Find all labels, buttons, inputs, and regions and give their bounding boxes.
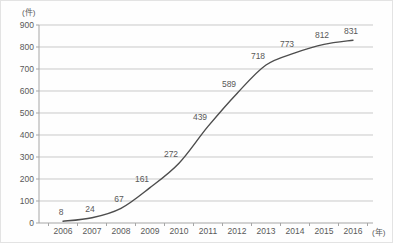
data-point-label: 67 (114, 194, 124, 204)
y-tick-label: 500 (20, 108, 34, 118)
data-point-label: 272 (164, 149, 178, 159)
x-tick-label: 2012 (228, 226, 247, 236)
x-tick-label: 2006 (54, 226, 73, 236)
data-point-label: 24 (85, 204, 95, 214)
y-tick-label: 700 (20, 64, 34, 74)
data-point-label: 773 (280, 39, 294, 49)
chart-canvas: 0100200300400500600700800900 20062007200… (1, 1, 393, 243)
data-point-label: 589 (222, 79, 236, 89)
x-axis-labels: 2006200720082009201020112012201320142015… (54, 226, 363, 236)
axes (39, 25, 373, 223)
x-tick-label: 2008 (112, 226, 131, 236)
x-tick-label: 2015 (315, 226, 334, 236)
data-point-label: 831 (344, 26, 358, 36)
y-axis-unit-label: (件) (22, 6, 35, 17)
x-tick-label: 2016 (344, 226, 363, 236)
point-labels: 82467161272439589718773812831 (59, 26, 359, 217)
data-point-label: 812 (315, 30, 329, 40)
y-tick-label: 200 (20, 174, 34, 184)
y-tick-label: 800 (20, 42, 34, 52)
y-tick-label: 900 (20, 20, 34, 30)
series-line (63, 40, 353, 221)
data-point-label: 718 (251, 51, 265, 61)
x-tick-label: 2014 (286, 226, 305, 236)
x-tick-label: 2011 (199, 226, 218, 236)
line-chart: (件) (年) 0100200300400500600700800900 200… (0, 0, 393, 243)
y-tick-label: 600 (20, 86, 34, 96)
x-tick-label: 2007 (83, 226, 102, 236)
data-point-label: 161 (135, 174, 149, 184)
data-point-label: 8 (59, 207, 64, 217)
x-tick-label: 2010 (170, 226, 189, 236)
y-tick-label: 300 (20, 152, 34, 162)
y-tick-label: 0 (29, 218, 34, 228)
y-tick-label: 400 (20, 130, 34, 140)
axis-ticks (36, 25, 368, 226)
x-axis-unit-label: (年) (372, 226, 385, 237)
x-tick-label: 2009 (141, 226, 160, 236)
y-tick-label: 100 (20, 196, 34, 206)
y-axis-labels: 0100200300400500600700800900 (20, 20, 34, 228)
x-tick-label: 2013 (257, 226, 276, 236)
data-point-label: 439 (193, 112, 207, 122)
